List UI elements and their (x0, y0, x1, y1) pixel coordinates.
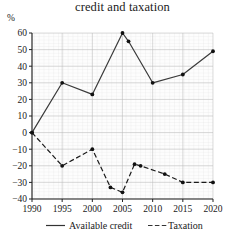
chart-container: credit and taxation % 6050403020100−10−2… (0, 0, 245, 239)
y-axis-tick-label: 0 (22, 128, 27, 138)
chart-plot-area: 6050403020100−10−20−30−40 19901995200020… (0, 0, 245, 239)
data-point-marker (139, 164, 143, 168)
y-axis-tick-label: −20 (12, 161, 27, 171)
y-axis-tick-labels: 6050403020100−10−20−30−40 (12, 28, 27, 204)
legend-item-0[interactable]: Available credit (46, 220, 133, 231)
x-axis-tick-label: 2000 (83, 204, 102, 214)
y-axis-tick-label: 30 (18, 78, 28, 88)
chart-legend: Available creditTaxation (46, 220, 203, 231)
y-axis-tick-label: −30 (12, 178, 27, 188)
data-point-marker (163, 172, 167, 176)
data-point-marker (60, 81, 64, 85)
x-axis-tick-label: 2010 (143, 204, 162, 214)
data-point-marker (90, 147, 94, 151)
y-axis-tick-label: 40 (18, 62, 28, 72)
x-axis-tick-label: 2005 (113, 204, 132, 214)
y-axis-tick-label: 50 (18, 45, 28, 55)
data-point-marker (30, 131, 34, 135)
y-axis-tick-label: −40 (12, 194, 27, 204)
x-axis-tick-label: 1990 (23, 204, 42, 214)
x-axis-tick-labels: 1990199520002005201020152020 (23, 204, 223, 214)
data-point-marker (181, 181, 185, 185)
data-point-marker (211, 49, 215, 53)
data-point-marker (181, 73, 185, 77)
data-point-marker (90, 93, 94, 97)
data-point-marker (133, 162, 137, 166)
data-point-marker (127, 39, 131, 43)
x-axis-tick-label: 2015 (173, 204, 192, 214)
data-point-marker (109, 185, 113, 189)
legend-item-1[interactable]: Taxation (148, 220, 203, 231)
y-axis-tick-label: 10 (18, 111, 28, 121)
data-point-marker (121, 190, 125, 194)
y-axis-tick-label: −10 (12, 145, 27, 155)
data-point-marker (211, 181, 215, 185)
data-point-marker (121, 31, 125, 35)
legend-label: Taxation (168, 220, 203, 231)
data-point-marker (60, 164, 64, 168)
y-axis-tick-label: 20 (18, 95, 28, 105)
x-axis-tick-label: 2020 (204, 204, 223, 214)
y-axis-tick-label: 60 (18, 28, 28, 38)
data-point-marker (151, 81, 155, 85)
legend-label: Available credit (69, 220, 133, 231)
x-axis-tick-label: 1995 (53, 204, 72, 214)
